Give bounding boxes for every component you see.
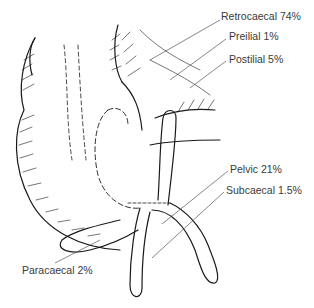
label-retrocaecal: Retrocaecal 74%: [221, 11, 301, 22]
label-subcaecal: Subcaecal 1.5%: [226, 185, 302, 196]
label-paracaecal: Paracaecal 2%: [22, 265, 93, 276]
label-pelvic: Pelvic 21%: [230, 164, 282, 175]
label-preilial: Preilial 1%: [229, 31, 279, 42]
appendix-illustration: [0, 0, 314, 308]
label-postilial: Postilial 5%: [229, 54, 283, 65]
